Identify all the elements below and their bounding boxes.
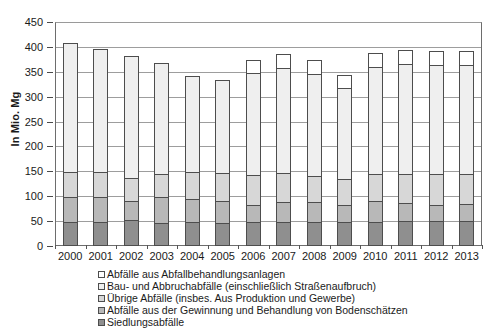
bar-segment (154, 63, 169, 174)
bar-segment (185, 222, 200, 246)
y-tick-label: 250 (0, 117, 43, 127)
stacked-bar[interactable] (429, 51, 444, 246)
bar-segment (459, 51, 474, 65)
bar-segment (429, 51, 444, 64)
stacked-bar[interactable] (215, 80, 230, 246)
y-tick-label: 300 (0, 92, 43, 102)
bar-segment (215, 80, 230, 174)
bar-segment (93, 222, 108, 246)
y-tick-mark (47, 171, 53, 172)
bar-segment (459, 204, 474, 221)
x-tick-label: 2003 (147, 249, 178, 263)
bar-segment (337, 179, 352, 205)
bar-segment (398, 50, 413, 63)
bar-segment (276, 54, 291, 68)
bar-segment (215, 173, 230, 200)
bar-segment (215, 201, 230, 223)
y-tick-label: 150 (0, 166, 43, 176)
bar-segment (276, 173, 291, 201)
bar-segment (93, 172, 108, 197)
bar-segment (63, 43, 78, 172)
y-tick-mark (47, 196, 53, 197)
legend-label: Abfälle aus Abfallbehandlungsanlagen (107, 268, 285, 280)
bar-segment (93, 197, 108, 221)
bar-slot (147, 22, 178, 246)
x-tick-mark (86, 245, 87, 249)
legend-item[interactable]: Abfälle aus Abfallbehandlungsanlagen (98, 268, 478, 280)
x-tick-label: 2007 (269, 249, 300, 263)
legend-item[interactable]: Übrige Abfälle (insbes. Aus Produktion u… (98, 292, 478, 304)
x-tick-label: 2005 (208, 249, 239, 263)
x-tick-mark (147, 245, 148, 249)
bar-segment (398, 221, 413, 246)
x-tick-mark (482, 245, 483, 249)
chart-figure: In Mio. Mg 450400350300250200150100500 2… (0, 0, 489, 334)
bar-segment (398, 174, 413, 203)
bar-slot (269, 22, 300, 246)
legend-item[interactable]: Siedlungsabfälle (98, 316, 478, 328)
stacked-bar[interactable] (63, 43, 78, 246)
bar-segment (459, 221, 474, 246)
x-tick-mark (238, 245, 239, 249)
stacked-bar[interactable] (124, 56, 139, 246)
bar-segment (337, 88, 352, 179)
bar-segment (215, 223, 230, 246)
bar-segment (368, 53, 383, 66)
stacked-bar[interactable] (368, 53, 383, 246)
bar-segment (246, 222, 261, 246)
stacked-bar[interactable] (459, 51, 474, 246)
legend-swatch-icon (98, 307, 105, 314)
bar-slot (86, 22, 117, 246)
bar-segment (429, 221, 444, 246)
stacked-bar[interactable] (185, 76, 200, 246)
stacked-bar[interactable] (398, 50, 413, 246)
x-tick-mark (330, 245, 331, 249)
legend-item[interactable]: Bau- und Abbruchabfälle (einschließlich … (98, 280, 478, 292)
y-tick-label: 350 (0, 67, 43, 77)
x-tick-label: 2000 (55, 249, 86, 263)
legend-swatch-icon (98, 271, 105, 278)
stacked-bar[interactable] (154, 63, 169, 246)
bar-segment (185, 172, 200, 199)
x-tick-label: 2013 (452, 249, 483, 263)
bar-segment (398, 64, 413, 174)
bar-segment (368, 67, 383, 175)
bar-segment (459, 65, 474, 175)
stacked-bar[interactable] (276, 54, 291, 246)
y-tick-mark (47, 22, 53, 23)
legend-swatch-icon (98, 319, 105, 326)
stacked-bar[interactable] (337, 75, 352, 246)
stacked-bar[interactable] (246, 60, 261, 246)
legend-swatch-icon (98, 295, 105, 302)
y-tick-label: 400 (0, 42, 43, 52)
stacked-bar[interactable] (93, 49, 108, 246)
bar-segment (368, 174, 383, 200)
stacked-bar[interactable] (307, 60, 322, 246)
bar-slot (116, 22, 147, 246)
bar-segment (154, 197, 169, 222)
y-tick-mark (47, 122, 53, 123)
x-tick-label: 2001 (86, 249, 117, 263)
x-tick-label: 2006 (238, 249, 269, 263)
bar-segment (337, 222, 352, 246)
x-tick-label: 2008 (299, 249, 330, 263)
bar-segment (63, 222, 78, 246)
y-tick-mark (47, 97, 53, 98)
bar-slot (452, 22, 483, 246)
legend-item[interactable]: Abfälle aus der Gewinnung und Behandlung… (98, 304, 478, 316)
bar-segment (368, 222, 383, 246)
x-tick-mark (269, 245, 270, 249)
bar-series-group (55, 22, 482, 246)
legend-label: Bau- und Abbruchabfälle (einschließlich … (107, 280, 376, 292)
bar-segment (459, 174, 474, 203)
bar-segment (185, 199, 200, 222)
bar-segment (246, 205, 261, 222)
bar-segment (246, 73, 261, 176)
bar-slot (391, 22, 422, 246)
bar-segment (93, 49, 108, 172)
x-tick-mark (360, 245, 361, 249)
bar-segment (124, 56, 139, 178)
bar-segment (63, 197, 78, 221)
bar-segment (246, 60, 261, 73)
bar-slot (208, 22, 239, 246)
